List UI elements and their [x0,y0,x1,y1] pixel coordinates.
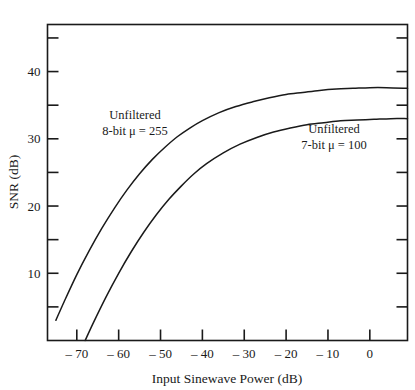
y-tick-label: 30 [28,131,41,146]
x-tick-label: – 30 [232,346,256,361]
y-tick-label: 40 [28,64,41,79]
x-tick-label: – 60 [106,346,130,361]
annotation-0-line2: 8-bit μ = 255 [102,124,168,138]
x-tick-label: – 10 [316,346,340,361]
x-axis-title: Input Sinewave Power (dB) [152,371,302,386]
chart-background [0,0,415,390]
snr-vs-input-power-chart: 10203040 – 70– 60– 50– 40– 30– 20– 100 U… [0,0,415,390]
x-tick-label: – 20 [274,346,298,361]
x-tick-label: 0 [367,346,374,361]
x-tick-label: – 50 [148,346,172,361]
y-axis-title: SNR (dB) [6,155,21,209]
y-tick-label: 20 [28,199,41,214]
chart-figure: 10203040 – 70– 60– 50– 40– 30– 20– 100 U… [0,0,415,390]
annotation-0-line1: Unfiltered [109,108,161,122]
annotation-1-line2: 7-bit μ = 100 [301,138,367,152]
y-tick-label: 10 [28,266,41,281]
annotation-1-line1: Unfiltered [308,122,360,136]
x-tick-label: – 70 [64,346,88,361]
x-tick-label: – 40 [190,346,214,361]
